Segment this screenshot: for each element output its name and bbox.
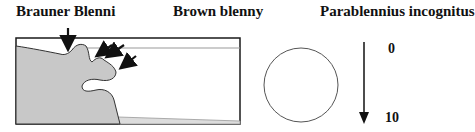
scale-bottom-value: 10 — [385, 110, 399, 126]
depth-arrowhead-icon — [359, 112, 369, 124]
habitat-panel — [16, 38, 240, 124]
scale-top-value: 0 — [388, 41, 395, 57]
circle-icon — [264, 48, 338, 122]
